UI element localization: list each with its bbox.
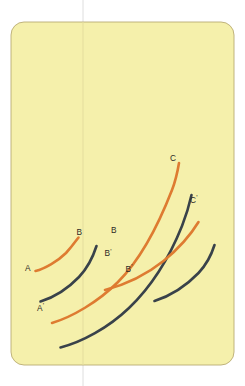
curve-diagram-canvas: AA'BB'BB'CC'	[0, 0, 245, 386]
label-B-right: B	[111, 225, 117, 235]
label-A: A	[25, 263, 31, 273]
label-B-left: B	[77, 227, 83, 237]
figure-root: AA'BB'BB'CC'	[0, 0, 245, 386]
label-C: C	[170, 153, 176, 163]
